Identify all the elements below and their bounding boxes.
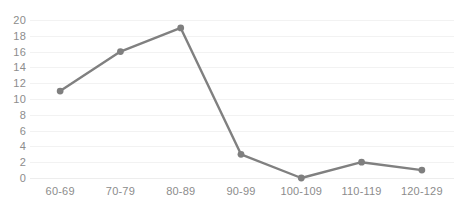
x-tick-label: 60-69 [46,185,75,198]
data-point [418,167,425,174]
data-point [117,48,124,55]
plot-area [0,0,456,203]
data-point [57,88,64,95]
series-markers [57,25,426,182]
data-point [298,175,305,182]
x-tick-label: 70-79 [106,185,135,198]
x-tick-label: 80-89 [166,185,195,198]
x-axis: 60-6970-7980-8990-99100-109110-119120-12… [0,185,456,203]
line-chart: 02468101214161820 60-6970-7980-8990-9910… [0,0,456,203]
x-tick-label: 90-99 [226,185,255,198]
x-tick-label: 110-119 [341,185,381,198]
x-tick-label: 100-109 [280,185,322,198]
data-point [177,25,184,32]
data-point [238,151,245,158]
x-tick-label: 120-129 [401,185,443,198]
data-point [358,159,365,166]
